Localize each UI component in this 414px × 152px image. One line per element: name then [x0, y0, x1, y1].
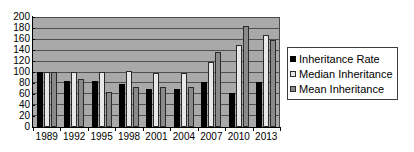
y-axis-tick-mark [32, 61, 35, 62]
legend-swatch-icon [290, 56, 296, 62]
x-axis-tick-label: 2007 [198, 130, 225, 146]
x-axis-tick-label: 2013 [253, 130, 280, 146]
y-axis-tick-mark [32, 72, 35, 73]
x-axis-tick-mark [33, 127, 34, 131]
x-axis-line [32, 127, 281, 128]
bar [92, 81, 98, 127]
y-axis-tick-label: 120 [13, 56, 30, 66]
legend-label: Mean Inheritance [299, 83, 384, 95]
bar-chart: 020406080100120140160180200 198919921995… [0, 0, 414, 152]
x-axis-tick-mark [280, 127, 281, 131]
bar [201, 82, 207, 127]
bar [256, 82, 262, 127]
y-axis-tick-label: 200 [13, 12, 30, 22]
bar [119, 84, 125, 127]
x-axis-tick-label: 1998 [115, 130, 142, 146]
bar [99, 72, 105, 127]
bar [51, 72, 57, 127]
bar [153, 73, 159, 127]
bar [263, 35, 269, 127]
bar [188, 87, 194, 127]
x-axis-tick-mark [143, 127, 144, 131]
y-axis-tick-label: 0 [24, 122, 30, 132]
bar-group [253, 17, 280, 127]
bar [133, 87, 139, 127]
y-axis-tick-mark [32, 17, 35, 18]
y-axis-tick-label: 160 [13, 34, 30, 44]
x-axis-tick-mark [253, 127, 254, 131]
bar [37, 72, 43, 127]
x-axis-tick-label: 1995 [88, 130, 115, 146]
legend-label: Inheritance Rate [299, 53, 380, 65]
bar-groups [33, 17, 280, 127]
bar [181, 73, 187, 127]
bar [236, 45, 242, 127]
y-axis-tick-mark [32, 28, 35, 29]
y-axis-tick-mark [32, 94, 35, 95]
bar [64, 81, 70, 127]
bar-group [143, 17, 170, 127]
x-axis-tick-label: 1989 [33, 130, 60, 146]
x-axis-tick-labels: 198919921995199820012004200720102013 [33, 130, 280, 146]
legend-swatch-icon [290, 71, 296, 77]
x-axis-tick-label: 2010 [225, 130, 252, 146]
x-axis-tick-label: 2001 [143, 130, 170, 146]
bar [78, 79, 84, 127]
legend-item: Mean Inheritance [290, 81, 393, 96]
bar [208, 62, 214, 127]
y-axis-tick-labels: 020406080100120140160180200 [0, 17, 30, 127]
legend-item: Median Inheritance [290, 66, 393, 81]
bar-group [33, 17, 60, 127]
y-axis-tick-mark [32, 39, 35, 40]
bar-group [170, 17, 197, 127]
bar-group [115, 17, 142, 127]
x-axis-tick-mark [115, 127, 116, 131]
bar [126, 71, 132, 127]
chart-legend: Inheritance RateMedian InheritanceMean I… [287, 47, 398, 100]
bar-group [198, 17, 225, 127]
legend-item: Inheritance Rate [290, 51, 393, 66]
y-axis-tick-mark [32, 116, 35, 117]
bar-group [88, 17, 115, 127]
y-axis-tick-mark [32, 105, 35, 106]
y-axis-tick-label: 100 [13, 67, 30, 77]
y-axis-tick-label: 40 [19, 100, 30, 110]
bar-group [225, 17, 252, 127]
plot-area-wrapper [33, 17, 280, 127]
x-axis-tick-mark [60, 127, 61, 131]
x-axis-tick-mark [198, 127, 199, 131]
bar [160, 87, 166, 127]
bar [174, 89, 180, 128]
bar-group [60, 17, 87, 127]
x-axis-tick-mark [88, 127, 89, 131]
y-axis-tick-label: 60 [19, 89, 30, 99]
x-axis-tick-label: 1992 [60, 130, 87, 146]
y-axis-tick-label: 180 [13, 23, 30, 33]
bar [243, 26, 249, 127]
legend-swatch-icon [290, 86, 296, 92]
y-axis-tick-label: 140 [13, 45, 30, 55]
bar [215, 52, 221, 127]
y-axis-tick-mark [32, 83, 35, 84]
bar [106, 92, 112, 127]
y-axis-tick-label: 80 [19, 78, 30, 88]
x-axis-tick-mark [170, 127, 171, 131]
bar [229, 93, 235, 127]
bar [44, 72, 50, 127]
x-axis-tick-label: 2004 [170, 130, 197, 146]
bar [146, 89, 152, 128]
y-axis-tick-mark [32, 50, 35, 51]
legend-label: Median Inheritance [299, 68, 393, 80]
bar [71, 72, 77, 127]
bar [270, 40, 276, 127]
y-axis-tick-label: 20 [19, 111, 30, 121]
x-axis-tick-mark [225, 127, 226, 131]
